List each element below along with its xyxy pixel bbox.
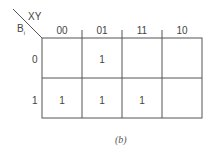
cell-r1-c2: 1: [122, 96, 162, 106]
col-header-00: 00: [42, 26, 82, 36]
cell-r0-c1: 1: [82, 55, 122, 65]
row-variable-label: Bi: [17, 24, 25, 38]
row-header-0: 0: [32, 55, 38, 65]
col-header-01: 01: [82, 26, 122, 36]
cell-r1-c1: 1: [82, 96, 122, 106]
row-header-1: 1: [32, 96, 38, 106]
cell-r1-c0: 1: [42, 96, 82, 106]
kmap-grid-lines: [0, 0, 215, 154]
col-header-10: 10: [162, 26, 202, 36]
row-variable-name: B: [17, 23, 24, 34]
column-variable-label: XY: [28, 12, 41, 22]
col-header-11: 11: [122, 26, 162, 36]
figure-caption: (b): [115, 134, 127, 145]
row-variable-subscript: i: [24, 30, 25, 36]
